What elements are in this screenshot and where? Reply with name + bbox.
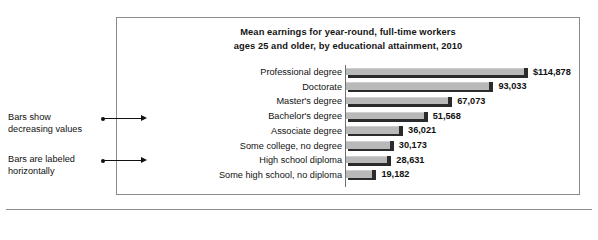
bar-body xyxy=(346,112,428,120)
bar-category-label: Associate degree xyxy=(271,126,342,137)
bar-end-cap xyxy=(372,170,376,178)
bar-category-label: Some high school, no diploma xyxy=(219,170,342,181)
annotation-line-2: decreasing values xyxy=(8,123,82,135)
bar-shadow xyxy=(348,134,403,137)
bar-category-label: Professional degree xyxy=(260,67,342,78)
chart-title-line-1: Mean earnings for year-round, full-time … xyxy=(116,26,580,40)
bar-shadow xyxy=(348,119,428,122)
bar-end-cap xyxy=(390,141,394,149)
bar-row: Bachelor's degree51,568 xyxy=(116,111,580,126)
bar-row: Some high school, no diploma19,182 xyxy=(116,170,580,185)
bar-end-cap xyxy=(399,126,403,134)
bar-category-label: Bachelor's degree xyxy=(268,111,342,122)
annotation-pointer-labeled-horizontally xyxy=(101,156,148,165)
bar-body xyxy=(346,141,394,149)
annotation-bars-are-labeled-horizontally: Bars are labeled horizontally xyxy=(8,153,75,178)
annotation-bars-show-decreasing-values: Bars show decreasing values xyxy=(8,111,82,136)
bar-row: Professional degree$114,878 xyxy=(116,67,580,82)
bar-body xyxy=(346,97,452,105)
bar-value-label: 51,568 xyxy=(433,111,461,122)
bar xyxy=(346,68,528,79)
annotation-line-1: Bars show xyxy=(8,111,82,123)
bar-body xyxy=(346,126,403,134)
chart-title-line-2: ages 25 and older, by educational attain… xyxy=(116,40,580,54)
bar-end-cap xyxy=(489,82,493,90)
bar-category-label: Master's degree xyxy=(276,96,342,107)
bar-end-cap xyxy=(387,156,391,164)
bar-row: Some college, no degree30,173 xyxy=(116,141,580,156)
bar-value-label: 19,182 xyxy=(381,169,409,180)
bar-category-label: Doctorate xyxy=(302,82,342,93)
bar-row: Associate degree36,021 xyxy=(116,126,580,141)
bar xyxy=(346,112,428,123)
bar-shadow xyxy=(348,149,394,152)
chart-title: Mean earnings for year-round, full-time … xyxy=(116,26,580,53)
pointer-line xyxy=(104,160,142,161)
page-bottom-rule xyxy=(6,209,592,210)
bar-shadow xyxy=(348,104,452,107)
bar-shadow xyxy=(348,178,376,181)
bar-value-label: $114,878 xyxy=(533,67,571,78)
arrow-right-icon xyxy=(141,157,147,163)
bar-value-label: 93,033 xyxy=(498,81,526,92)
bar-body xyxy=(346,82,493,90)
bar-category-label: Some college, no degree xyxy=(240,141,342,152)
bar xyxy=(346,126,403,137)
bar xyxy=(346,170,376,181)
bar-end-cap xyxy=(424,112,428,120)
arrow-right-icon xyxy=(141,115,147,121)
bar-chart-plot-area: Professional degree$114,878Doctorate93,0… xyxy=(116,64,580,188)
bar xyxy=(346,156,391,167)
annotation-line-2: horizontally xyxy=(8,165,75,177)
bar xyxy=(346,141,394,152)
bar-shadow xyxy=(348,75,528,78)
bar-value-label: 30,173 xyxy=(399,140,427,151)
annotation-pointer-decreasing-values xyxy=(101,114,148,123)
bar-shadow xyxy=(348,90,493,93)
bar-row: Master's degree67,073 xyxy=(116,96,580,111)
bar-end-cap xyxy=(448,97,452,105)
bar-value-label: 36,021 xyxy=(408,125,436,136)
bar-body xyxy=(346,68,528,76)
bar-value-label: 28,631 xyxy=(396,155,424,166)
bar-row: Doctorate93,033 xyxy=(116,82,580,97)
bar-shadow xyxy=(348,163,391,166)
annotation-line-1: Bars are labeled xyxy=(8,153,75,165)
pointer-line xyxy=(104,118,142,119)
bar-body xyxy=(346,156,391,164)
bar-row: High school diploma28,631 xyxy=(116,155,580,170)
bar-category-label: High school diploma xyxy=(259,155,342,166)
bar-value-label: 67,073 xyxy=(457,96,485,107)
bar xyxy=(346,97,452,108)
bar xyxy=(346,82,493,93)
bar-end-cap xyxy=(524,68,528,76)
